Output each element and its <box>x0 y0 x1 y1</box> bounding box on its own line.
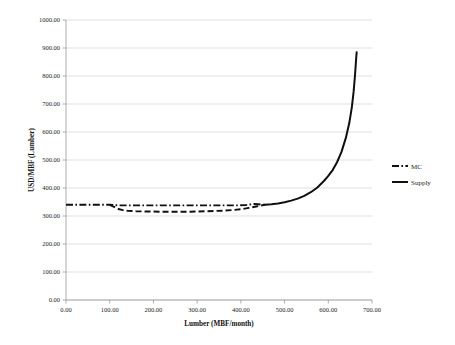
y-tick-label: 100.00 <box>42 268 60 275</box>
chart-background <box>0 0 455 345</box>
y-tick-label: 400.00 <box>42 184 60 191</box>
y-tick-label: 200.00 <box>42 240 60 247</box>
y-tick-label: 1000.00 <box>39 16 60 23</box>
chart-container: 0.00100.00200.00300.00400.00500.00600.00… <box>0 0 455 345</box>
x-tick-label: 600.00 <box>319 306 337 313</box>
x-tick-label: 700.00 <box>363 306 381 313</box>
y-axis-title: USD/MBF (Lumber) <box>28 127 36 191</box>
x-tick-label: 500.00 <box>276 306 294 313</box>
legend-label-mc: MC <box>411 163 422 171</box>
x-tick-label: 200.00 <box>144 306 162 313</box>
y-tick-label: 800.00 <box>42 72 60 79</box>
x-tick-label: 300.00 <box>188 306 206 313</box>
y-tick-label: 900.00 <box>42 44 60 51</box>
y-tick-label: 600.00 <box>42 128 60 135</box>
x-tick-label: 100.00 <box>101 306 119 313</box>
y-tick-label: 300.00 <box>42 212 60 219</box>
legend-label-supply: Supply <box>411 179 431 187</box>
x-tick-label: 0.00 <box>60 306 71 313</box>
y-tick-label: 700.00 <box>42 100 60 107</box>
y-tick-label: 0.00 <box>49 296 60 303</box>
y-tick-label: 500.00 <box>42 156 60 163</box>
lumber-supply-marginal-cost-chart: 0.00100.00200.00300.00400.00500.00600.00… <box>0 0 455 345</box>
x-tick-label: 400.00 <box>232 306 250 313</box>
x-axis-title: Lumber (MBF/month) <box>184 320 254 328</box>
